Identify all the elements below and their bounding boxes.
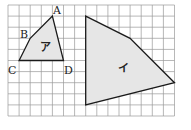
grid-diagram: A B C D ア イ (0, 0, 191, 130)
shape-label-a: ア (40, 41, 51, 54)
vertex-label-c: C (8, 64, 16, 77)
shape-label-i: イ (118, 62, 129, 75)
vertex-label-a: A (52, 4, 62, 17)
vertex-label-b: B (20, 28, 28, 41)
vertex-label-d: D (64, 64, 73, 77)
